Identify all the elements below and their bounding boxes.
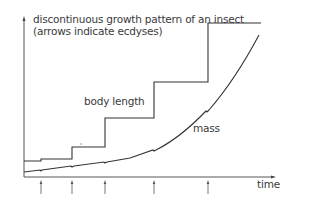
- diagram-subtitle: (arrows indicate ecdyses): [33, 25, 162, 37]
- ecdysis-arrow-icon: [153, 180, 156, 194]
- body-length-label: body length: [84, 95, 145, 107]
- ecdysis-arrow-icon: [104, 180, 107, 194]
- body-length-line: [24, 23, 261, 161]
- ecdysis-arrows: [40, 180, 210, 194]
- mass-label: mass: [193, 122, 220, 134]
- y-axis-arrow-icon: [23, 16, 26, 21]
- x-axis-label: time: [257, 178, 280, 190]
- ecdysis-arrow-icon: [207, 180, 210, 194]
- x-axis: [24, 176, 276, 179]
- diagram-title: discontinuous growth pattern of an insec…: [33, 13, 244, 25]
- y-axis: [23, 16, 26, 177]
- ecdysis-arrow-icon: [40, 180, 43, 194]
- ecdysis-arrow-icon: [71, 180, 74, 194]
